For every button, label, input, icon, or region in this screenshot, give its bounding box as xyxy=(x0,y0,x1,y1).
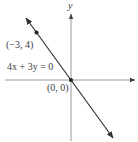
point-neg3-4 xyxy=(35,31,39,35)
point-label-neg3-4: (−3, 4) xyxy=(6,40,33,50)
linear-equation-graph: y (−3, 4) 4x + 3y = 0 (0, 0) xyxy=(0,0,138,142)
equation-label: 4x + 3y = 0 xyxy=(7,62,53,72)
y-axis-label: y xyxy=(68,1,72,11)
equation-line xyxy=(26,18,113,138)
point-origin xyxy=(69,78,73,82)
point-label-origin: (0, 0) xyxy=(47,83,69,93)
